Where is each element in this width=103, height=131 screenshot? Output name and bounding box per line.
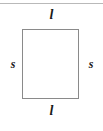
left-side-label: s [6, 58, 20, 70]
top-side-label: l [0, 8, 103, 22]
bottom-side-label: l [0, 104, 103, 118]
right-side-label: s [84, 58, 98, 70]
rectangle-diagram: l l s s [0, 0, 103, 131]
top-divider-rule [0, 3, 103, 4]
rectangle-shape [22, 29, 79, 99]
